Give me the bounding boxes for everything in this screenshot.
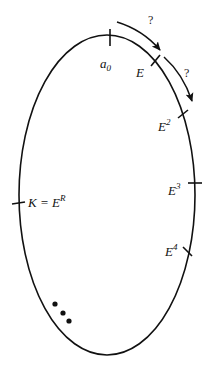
ellipsis-dots	[52, 301, 71, 323]
arrow-label-2: ?	[184, 66, 189, 80]
dot-1	[52, 301, 57, 306]
arrow-label-1: ?	[148, 13, 153, 27]
label-K: K = ER	[27, 193, 66, 210]
label-E: E	[135, 65, 144, 80]
ellipse-cycle-diagram: ? ? a0 E E2 E3 E4 K = ER	[0, 0, 209, 370]
label-a0: a0	[100, 56, 112, 73]
label-E4: E4	[164, 242, 178, 259]
dot-2	[60, 310, 65, 315]
label-E3: E3	[167, 181, 181, 198]
dot-3	[66, 318, 71, 323]
tick-K	[12, 202, 25, 204]
label-E2: E2	[157, 117, 171, 134]
